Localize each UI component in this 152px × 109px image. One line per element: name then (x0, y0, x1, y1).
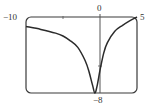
y-min-label: −8 (93, 96, 103, 105)
plot-frame (26, 17, 137, 93)
chart (0, 0, 152, 109)
x-max-label: 5 (140, 13, 145, 22)
function-curve (26, 17, 137, 93)
x-min-label: −10 (3, 13, 17, 22)
y-max-label: 0 (97, 4, 102, 13)
